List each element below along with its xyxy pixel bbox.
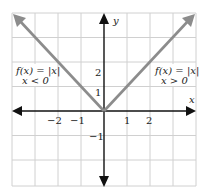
tick-y-minus1: −1 (89, 131, 104, 142)
y-axis-up-arrow-icon (99, 13, 109, 24)
tick-x-minus1: −1 (70, 115, 85, 126)
x-axis-label: x (189, 94, 195, 105)
x-axis-right-arrow-icon (186, 106, 196, 116)
absolute-value-graph: y x −2 −1 1 2 2 1 −1 f(x) = |x| x < 0 f(… (0, 0, 209, 192)
y-axis-down-arrow-icon (99, 176, 109, 187)
tick-x-2: 2 (146, 115, 152, 126)
y-axis-label: y (112, 15, 119, 26)
y-axis (99, 13, 109, 187)
tick-x-1: 1 (124, 115, 130, 126)
tick-y-2: 2 (95, 67, 101, 78)
tick-y-1: 1 (95, 87, 101, 98)
tick-x-minus2: −2 (47, 115, 62, 126)
left-annotation-line2: x < 0 (22, 75, 49, 86)
right-annotation-line2: x > 0 (161, 75, 188, 86)
x-axis-left-arrow-icon (12, 106, 22, 116)
